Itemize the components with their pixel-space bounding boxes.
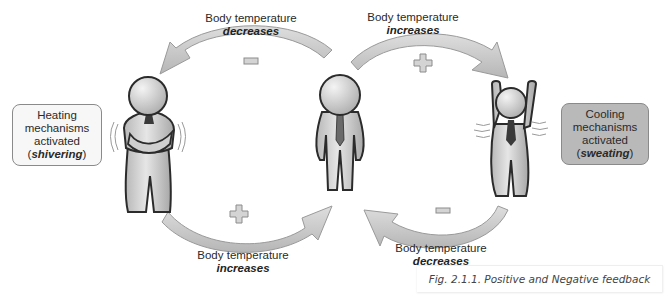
arrow-bottom-left	[162, 205, 332, 252]
shivering-text: shivering	[31, 148, 82, 160]
label-line: Body temperature	[197, 249, 288, 261]
minus-icon	[244, 58, 258, 64]
plus-icon	[414, 54, 432, 72]
label-line: Body temperature	[367, 11, 458, 23]
box-emphasis-line: (sweating)	[562, 147, 648, 160]
label-emphasis: increases	[358, 24, 468, 37]
label-top-left: Body temperature decreases	[196, 12, 306, 38]
shivering-person-figure	[111, 77, 186, 212]
label-line: Body temperature	[205, 12, 296, 24]
box-line: Heating	[13, 109, 101, 122]
minus-icon	[436, 208, 450, 213]
box-line: mechanisms	[562, 121, 648, 134]
label-top-right: Body temperature increases	[358, 11, 468, 37]
arrow-top-right	[351, 34, 508, 78]
sweating-text: sweating	[580, 147, 629, 159]
label-line: Body temperature	[395, 242, 486, 254]
label-bottom-left: Body temperature increases	[188, 249, 298, 275]
box-emphasis-line: (shivering)	[13, 148, 101, 161]
heating-mechanisms-box: Heating mechanisms activated (shivering)	[12, 104, 102, 166]
paren-close: )	[630, 147, 634, 159]
paren-close: )	[83, 148, 87, 160]
box-line: activated	[13, 135, 101, 148]
box-line: activated	[562, 134, 648, 147]
box-line: mechanisms	[13, 122, 101, 135]
neutral-person-figure	[316, 75, 363, 190]
figure-caption: Fig. 2.1.1. Positive and Negative feedba…	[417, 265, 663, 292]
box-line: Cooling	[562, 108, 648, 121]
cooling-mechanisms-box: Cooling mechanisms activated (sweating)	[561, 103, 649, 165]
label-emphasis: increases	[188, 262, 298, 275]
plus-icon	[230, 205, 248, 223]
label-emphasis: decreases	[196, 25, 306, 38]
sweating-person-figure	[474, 81, 548, 196]
